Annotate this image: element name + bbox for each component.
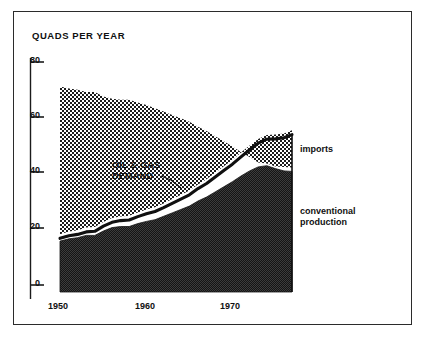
y-tick-label-20: 20	[18, 221, 40, 231]
annotation-imports: imports	[300, 144, 333, 155]
y-tick-label-80: 80	[18, 55, 40, 65]
y-tick-label-0: 0	[18, 278, 40, 288]
figure-container: QUADS PER YEAR	[0, 0, 429, 342]
y-tick-label-40: 40	[18, 165, 40, 175]
annotation-conventional-production: conventional production	[300, 206, 356, 228]
chart-plot-area	[0, 0, 429, 342]
y-tick-label-60: 60	[18, 110, 40, 120]
x-tick-label-1970: 1970	[210, 301, 250, 311]
annotation-oil-gas-demand: OIL & GAS DEMAND	[112, 160, 161, 182]
x-tick-label-1960: 1960	[125, 301, 165, 311]
x-tick-label-1950: 1950	[38, 301, 78, 311]
